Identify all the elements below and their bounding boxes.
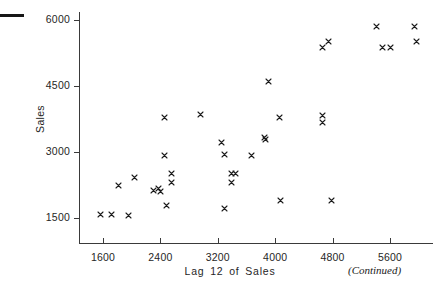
data-point-marker	[373, 23, 380, 30]
data-point-marker	[163, 202, 170, 209]
data-point-marker	[328, 197, 335, 204]
data-point-marker	[97, 211, 104, 218]
data-point-marker	[232, 170, 239, 177]
data-point-marker	[319, 44, 326, 51]
data-point-marker	[319, 119, 326, 126]
data-point-marker	[387, 44, 394, 51]
data-point-marker	[325, 38, 332, 45]
data-point-marker	[197, 111, 204, 118]
data-point-marker	[248, 152, 255, 159]
data-point-marker	[413, 38, 420, 45]
data-point-marker	[261, 134, 268, 141]
data-point-marker	[161, 114, 168, 121]
data-point-marker	[221, 151, 228, 158]
data-point-marker	[155, 185, 162, 192]
data-point-marker	[277, 197, 284, 204]
data-point-marker	[411, 23, 418, 30]
data-point-marker	[168, 170, 175, 177]
data-point-marker	[265, 78, 272, 85]
data-points-layer	[0, 0, 440, 294]
data-point-marker	[108, 211, 115, 218]
data-point-marker	[168, 179, 175, 186]
data-point-marker	[262, 136, 269, 143]
data-point-marker	[221, 205, 228, 212]
data-point-marker	[161, 152, 168, 159]
data-point-marker	[125, 212, 132, 219]
data-point-marker	[115, 182, 122, 189]
data-point-marker	[218, 139, 225, 146]
scatter-plot-figure: Sales Lag 12 of Sales (Continued) 150030…	[0, 0, 440, 294]
data-point-marker	[228, 170, 235, 177]
data-point-marker	[157, 188, 164, 195]
data-point-marker	[150, 187, 157, 194]
data-point-marker	[319, 112, 326, 119]
data-point-marker	[276, 114, 283, 121]
data-point-marker	[131, 174, 138, 181]
data-point-marker	[228, 179, 235, 186]
data-point-marker	[379, 44, 386, 51]
